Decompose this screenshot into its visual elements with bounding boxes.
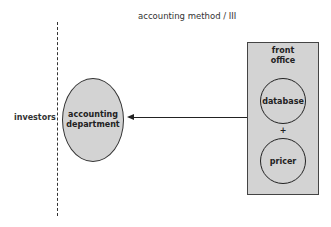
database-label: database: [262, 97, 304, 106]
accounting-department-node: accounting department: [62, 78, 124, 162]
pricer-label: pricer: [270, 157, 297, 166]
investor-boundary-line: [57, 22, 58, 216]
accounting-label-line2: department: [66, 120, 119, 129]
front-office-box: front office database + pricer: [247, 42, 319, 195]
arrowhead-icon: [127, 114, 134, 120]
front-office-label-line1: front: [272, 46, 294, 55]
diagram-title: accounting method / III: [138, 11, 236, 21]
accounting-department-label: accounting department: [66, 110, 119, 130]
front-office-label: front office: [248, 46, 318, 66]
front-office-label-line2: office: [271, 56, 296, 65]
pricer-node: pricer: [260, 138, 306, 184]
investors-label: investors: [14, 113, 56, 122]
accounting-label-line1: accounting: [68, 110, 118, 119]
database-node: database: [260, 78, 306, 124]
flow-arrow-line: [129, 117, 247, 118]
plus-operator: +: [248, 126, 318, 135]
